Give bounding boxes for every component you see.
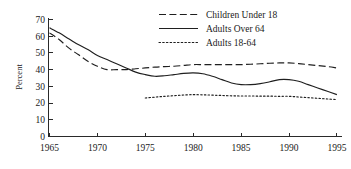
y-tick-label: 50 (36, 48, 46, 58)
x-axis-tick-labels: 1965 1970 1975 1980 1985 1990 1995 (40, 143, 347, 153)
series-line-adults-18-64 (145, 95, 337, 100)
y-tick-label: 40 (36, 65, 46, 75)
x-tick-label: 1995 (327, 143, 346, 153)
x-tick-label: 1965 (40, 143, 59, 153)
x-tick-label: 1980 (184, 143, 203, 153)
legend-label-adults-18-64: Adults 18-64 (206, 38, 256, 48)
y-tick-label: 70 (36, 15, 46, 25)
chart-legend: Children Under 18 Adults Over 64 Adults … (159, 10, 277, 48)
y-axis-title: Percent (14, 64, 24, 90)
series-line-adults-over-64 (50, 28, 337, 95)
x-tick-label: 1990 (280, 143, 299, 153)
y-tick-label: 20 (36, 98, 46, 108)
x-tick-label: 1970 (88, 143, 107, 153)
y-axis-tick-labels: 70 60 50 40 30 20 10 0 (36, 15, 46, 142)
y-tick-label: 60 (36, 32, 46, 42)
legend-label-adults-over-64: Adults Over 64 (206, 24, 265, 34)
x-axis-ticks (50, 133, 337, 137)
y-tick-label: 0 (40, 132, 45, 142)
x-tick-label: 1985 (232, 143, 251, 153)
y-tick-label: 30 (36, 82, 46, 92)
chart-figure: 70 60 50 40 30 20 10 0 1965 1970 1975 19… (0, 0, 351, 169)
y-axis-ticks (49, 20, 53, 137)
legend-label-children-under-18: Children Under 18 (206, 10, 277, 20)
x-tick-label: 1975 (136, 143, 155, 153)
line-chart: 70 60 50 40 30 20 10 0 1965 1970 1975 19… (0, 0, 351, 169)
series-line-children-under-18 (50, 33, 337, 70)
y-tick-label: 10 (36, 115, 46, 125)
